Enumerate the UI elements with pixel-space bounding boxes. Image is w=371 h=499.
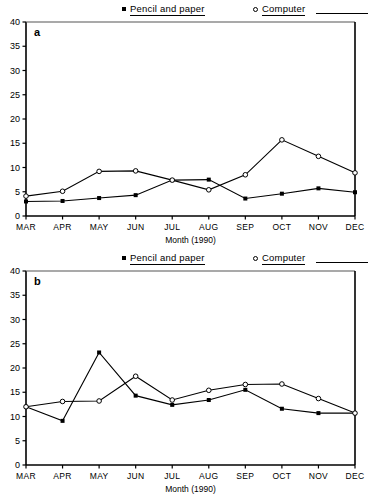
x-tick-label: DEC <box>346 222 365 232</box>
data-point-pencil-and-paper <box>97 350 101 354</box>
x-tick-label: SEP <box>236 471 254 481</box>
y-tick-label: 30 <box>10 315 20 325</box>
data-point-pencil-and-paper <box>97 196 101 200</box>
y-tick-label: 10 <box>10 412 20 422</box>
data-point-computer <box>133 374 138 379</box>
y-tick-label: 25 <box>10 90 20 100</box>
data-point-computer <box>24 405 29 410</box>
data-point-computer <box>316 154 321 159</box>
series-line-pencil-and-paper <box>26 352 355 420</box>
series-line-computer <box>26 376 355 413</box>
chart-panel-a: Pencil and paper Computer 05101520253035… <box>0 0 371 249</box>
y-tick-label: 0 <box>15 460 20 470</box>
data-point-pencil-and-paper <box>24 199 28 203</box>
x-tick-label: NOV <box>309 471 328 481</box>
x-tick-label: SEP <box>236 222 254 232</box>
data-point-pencil-and-paper <box>134 193 138 197</box>
y-tick-label: 35 <box>10 290 20 300</box>
x-tick-label: MAR <box>16 222 36 232</box>
data-point-computer <box>97 169 102 174</box>
y-tick-label: 35 <box>10 41 20 51</box>
data-point-computer <box>243 382 248 387</box>
y-tick-label: 40 <box>10 266 20 276</box>
x-tick-label: MAY <box>90 222 109 232</box>
data-point-computer <box>170 178 175 183</box>
data-point-computer <box>60 399 65 404</box>
panel-letter-b: b <box>34 275 41 287</box>
data-point-computer <box>206 388 211 393</box>
data-point-computer <box>60 189 65 194</box>
x-tick-label: JUN <box>127 222 144 232</box>
figure-container: Pencil and paper Computer 05101520253035… <box>0 0 371 499</box>
data-point-computer <box>206 188 211 193</box>
data-point-pencil-and-paper <box>316 186 320 190</box>
y-tick-label: 5 <box>15 436 20 446</box>
data-point-computer <box>133 169 138 174</box>
data-point-computer <box>316 396 321 401</box>
x-tick-label: DEC <box>346 471 365 481</box>
data-point-computer <box>280 382 285 387</box>
data-point-computer <box>97 399 102 404</box>
x-axis-title: Month (1990) <box>165 484 216 494</box>
x-tick-label: JUL <box>164 471 180 481</box>
data-point-pencil-and-paper <box>243 197 247 201</box>
x-axis-title: Month (1990) <box>165 235 216 245</box>
x-tick-label: OCT <box>272 471 291 481</box>
data-point-pencil-and-paper <box>316 411 320 415</box>
data-point-pencil-and-paper <box>207 398 211 402</box>
data-point-computer <box>353 171 358 176</box>
data-point-pencil-and-paper <box>61 199 65 203</box>
y-tick-label: 20 <box>10 363 20 373</box>
chart-plot-b: 0510152025303540MARAPRMAYJUNJULAUGSEPOCT… <box>0 249 371 498</box>
data-point-computer <box>243 172 248 177</box>
x-tick-label: MAR <box>16 471 36 481</box>
x-tick-label: NOV <box>309 222 328 232</box>
x-tick-label: APR <box>53 222 71 232</box>
x-tick-label: APR <box>53 471 71 481</box>
data-point-computer <box>353 411 358 416</box>
x-tick-label: JUN <box>127 471 144 481</box>
y-tick-label: 5 <box>15 187 20 197</box>
data-point-pencil-and-paper <box>207 178 211 182</box>
data-point-pencil-and-paper <box>61 419 65 423</box>
data-point-computer <box>280 138 285 143</box>
data-point-pencil-and-paper <box>280 192 284 196</box>
data-point-computer <box>24 194 29 199</box>
y-tick-label: 0 <box>15 211 20 221</box>
chart-panel-b: Pencil and paper Computer 05101520253035… <box>0 249 371 499</box>
y-tick-label: 15 <box>10 138 20 148</box>
data-point-pencil-and-paper <box>353 190 357 194</box>
y-tick-label: 25 <box>10 339 20 349</box>
x-tick-label: JUL <box>164 222 180 232</box>
x-tick-label: OCT <box>272 222 291 232</box>
y-tick-label: 10 <box>10 163 20 173</box>
y-tick-label: 15 <box>10 387 20 397</box>
data-point-pencil-and-paper <box>243 388 247 392</box>
y-tick-label: 20 <box>10 114 20 124</box>
series-line-pencil-and-paper <box>26 180 355 202</box>
y-tick-label: 30 <box>10 66 20 76</box>
data-point-computer <box>170 398 175 403</box>
x-tick-label: AUG <box>199 471 218 481</box>
data-point-pencil-and-paper <box>170 403 174 407</box>
data-point-pencil-and-paper <box>280 407 284 411</box>
panel-letter-a: a <box>34 26 41 38</box>
series-line-computer <box>26 140 355 196</box>
data-point-pencil-and-paper <box>134 394 138 398</box>
chart-plot-a: 0510152025303540MARAPRMAYJUNJULAUGSEPOCT… <box>0 0 371 249</box>
x-tick-label: MAY <box>90 471 109 481</box>
x-tick-label: AUG <box>199 222 218 232</box>
y-tick-label: 40 <box>10 17 20 27</box>
